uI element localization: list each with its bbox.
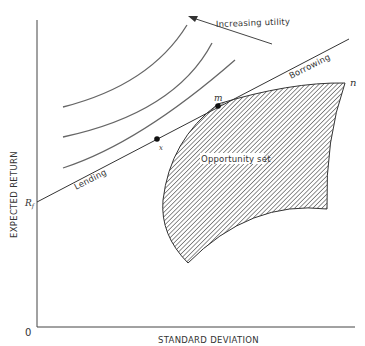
indifference-curve-middle	[63, 43, 212, 137]
indifference-curve-top	[63, 25, 187, 107]
risk-free-label: Rf	[24, 198, 36, 210]
market-portfolio-point-m	[215, 103, 221, 109]
origin-label: 0	[25, 327, 31, 338]
opportunity-set-label: Opportunity set	[201, 154, 271, 164]
diagram-svg: 0 STANDARD DEVIATION EXPECTED RETURN Rf …	[0, 0, 365, 346]
diagram-canvas: 0 STANDARD DEVIATION EXPECTED RETURN Rf …	[0, 0, 365, 346]
lending-label: Lending	[72, 167, 108, 192]
arrowhead-icon	[188, 16, 198, 22]
increasing-utility-label: Increasing utility	[216, 16, 291, 29]
point-m-label: m	[214, 93, 223, 103]
point-x-label: x	[159, 144, 163, 152]
point-n-label: n	[350, 77, 356, 88]
borrowing-label: Borrowing	[287, 52, 331, 81]
y-axis-label: EXPECTED RETURN	[9, 151, 19, 238]
tangency-point-x	[154, 136, 160, 142]
x-axis-label: STANDARD DEVIATION	[158, 335, 259, 345]
opportunity-set-region	[163, 83, 345, 263]
